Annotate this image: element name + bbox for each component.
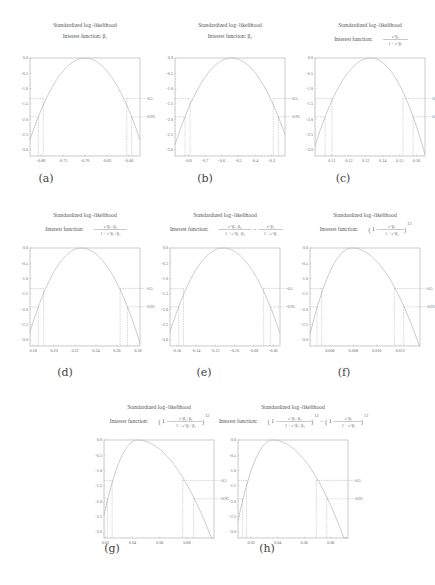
svg-text:0.0: 0.0 <box>163 245 168 250</box>
subfigure-label-a: (a) <box>26 172 66 185</box>
svg-text:12: 12 <box>205 413 209 418</box>
svg-text:Interest function:: Interest function: <box>334 36 373 42</box>
confidence-cutoffs: -0.5-0.95 <box>315 96 435 156</box>
log-likelihood-curve <box>238 440 348 538</box>
interest-function-label: Interest function: β₁ <box>63 33 108 39</box>
svg-text:0.0: 0.0 <box>23 245 28 250</box>
chart-panel-e: Standardized log−likelihoodInterest func… <box>148 208 288 358</box>
subfigure-label-d: (d) <box>45 366 85 379</box>
svg-text:Interest function:: Interest function: <box>219 418 258 424</box>
svg-text:−: − <box>320 418 323 424</box>
confidence-cutoffs: -0.5-0.95 <box>175 96 300 156</box>
svg-text:0.16: 0.16 <box>413 158 420 163</box>
chart-title: Standardized log−likelihood <box>127 404 191 410</box>
svg-text:-0.5: -0.5 <box>95 453 102 458</box>
svg-text:1 + e^β₁: 1 + e^β₁ <box>388 41 403 46</box>
svg-text:-2.0: -2.0 <box>21 117 28 122</box>
chart-title: Standardized log−likelihood <box>261 404 325 410</box>
svg-text:-0.06: -0.06 <box>269 348 278 353</box>
plot-frame <box>104 440 214 538</box>
svg-text:): ) <box>311 419 313 426</box>
svg-text:-0.65: -0.65 <box>103 158 112 163</box>
svg-text:): ) <box>404 227 406 234</box>
subfigure-label-c: (c) <box>323 172 363 185</box>
chart-panel-a: Standardized log−likelihoodInterest func… <box>8 18 148 168</box>
svg-text:0.24: 0.24 <box>92 348 100 353</box>
svg-text:Interest function:: Interest function: <box>320 226 359 232</box>
svg-text:-0.3: -0.3 <box>268 158 275 163</box>
svg-text:Interest function:: Interest function: <box>45 226 84 232</box>
svg-text:-0.95: -0.95 <box>431 114 435 119</box>
svg-text:e^β₁: e^β₁ <box>388 224 396 229</box>
svg-text:0.12: 0.12 <box>345 158 352 163</box>
chart-panel-b: Standardized log−likelihoodInterest func… <box>153 18 293 168</box>
svg-text:-1.5: -1.5 <box>306 101 313 106</box>
svg-text:e^β₁+β₂: e^β₁+β₂ <box>104 224 118 229</box>
log-likelihood-curve <box>170 248 280 333</box>
svg-text:1 −: 1 − <box>162 418 169 424</box>
svg-text:-1.5: -1.5 <box>166 101 173 106</box>
svg-text:(: ( <box>325 419 327 426</box>
svg-text:Interest function: β₁: Interest function: β₁ <box>63 33 108 39</box>
svg-text:12: 12 <box>314 413 318 418</box>
svg-text:-2.0: -2.0 <box>306 117 313 122</box>
svg-text:-0.10: -0.10 <box>230 348 239 353</box>
subfigure-label-h: (h) <box>247 542 287 555</box>
svg-text:0.0: 0.0 <box>308 55 313 60</box>
svg-text:): ) <box>361 419 363 426</box>
svg-text:-2.5: -2.5 <box>166 132 173 137</box>
svg-text:0.012: 0.012 <box>395 348 404 353</box>
plot-frame <box>175 58 285 156</box>
subfigure-label-e: (e) <box>184 366 224 379</box>
svg-text:-0.7: -0.7 <box>202 158 209 163</box>
svg-text:1 + e^β₁+β₂: 1 + e^β₁+β₂ <box>285 423 305 428</box>
svg-text:-0.60: -0.60 <box>125 158 134 163</box>
plot-frame <box>30 58 140 156</box>
svg-text:0.010: 0.010 <box>372 348 381 353</box>
confidence-cutoffs: -0.5-0.95 <box>30 96 155 156</box>
svg-text:-3.0: -3.0 <box>21 147 28 152</box>
chart-title: Standardized log−likelihood <box>193 212 257 218</box>
interest-function-label: Interest function:e^β₁1 + e^β₁ <box>334 34 408 46</box>
svg-text:Interest function:: Interest function: <box>170 226 209 232</box>
svg-text:-0.5: -0.5 <box>161 261 168 266</box>
subfigure-label-b: (b) <box>185 172 225 185</box>
interest-function-label: Interest function: β₂ <box>208 33 253 39</box>
svg-text:-1.0: -1.0 <box>161 276 168 281</box>
svg-text:-3.0: -3.0 <box>229 529 236 534</box>
svg-text:-0.5: -0.5 <box>229 453 236 458</box>
svg-text:-2.0: -2.0 <box>301 307 308 312</box>
svg-text:-0.08: -0.08 <box>250 348 259 353</box>
svg-text:-0.4: -0.4 <box>252 158 260 163</box>
log-likelihood-curve <box>30 58 140 140</box>
svg-text:0.08: 0.08 <box>327 540 334 545</box>
svg-text:12: 12 <box>364 413 368 418</box>
interest-function-label: Interest function:(1 −e^β₁+β₂1 + e^β₁+β₂… <box>219 413 368 428</box>
log-likelihood-curve <box>315 58 425 154</box>
svg-text:0.11: 0.11 <box>328 158 335 163</box>
chart-title: Standardized log−likelihood <box>333 212 397 218</box>
svg-text:0.28: 0.28 <box>134 348 141 353</box>
subfigure-label-f: (f) <box>324 366 364 379</box>
svg-text:-2.5: -2.5 <box>21 132 28 137</box>
svg-text:12: 12 <box>407 221 411 226</box>
svg-text:e^β₁: e^β₁ <box>267 224 275 229</box>
log-likelihood-curve <box>30 248 140 343</box>
svg-text:-1.0: -1.0 <box>21 86 28 91</box>
svg-text:-2.5: -2.5 <box>95 514 102 519</box>
svg-text:e^β₁+β₂: e^β₁+β₂ <box>179 416 193 421</box>
svg-text:-2.0: -2.0 <box>166 117 173 122</box>
svg-text:0.18: 0.18 <box>29 348 36 353</box>
svg-text:-0.5: -0.5 <box>426 286 433 291</box>
svg-text:1 + e^β₁: 1 + e^β₁ <box>342 423 357 428</box>
svg-text:-1.0: -1.0 <box>95 468 102 473</box>
svg-text:-2.5: -2.5 <box>306 132 313 137</box>
svg-text:-1.0: -1.0 <box>166 86 173 91</box>
svg-text:0.22: 0.22 <box>71 348 78 353</box>
chart-panel-d: Standardized log−likelihoodInterest func… <box>8 208 148 358</box>
interest-function-label: Interest function:e^β₁+β₂1 + e^β₁+β₂ <box>45 224 126 236</box>
svg-text:Interest function: β₂: Interest function: β₂ <box>208 33 253 39</box>
svg-text:Interest function:: Interest function: <box>110 418 149 424</box>
plot-frame <box>310 248 420 346</box>
svg-text:-0.5: -0.5 <box>301 261 308 266</box>
